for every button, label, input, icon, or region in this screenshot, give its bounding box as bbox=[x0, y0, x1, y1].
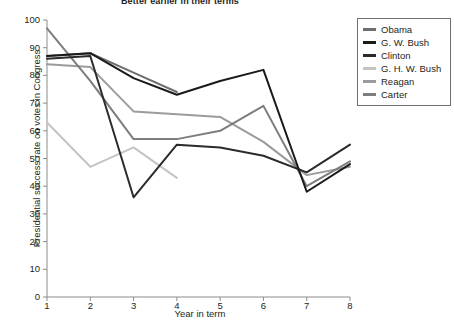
x-tick-label: 3 bbox=[124, 300, 144, 311]
legend-item-carter[interactable]: Carter bbox=[358, 88, 450, 101]
legend-swatch-icon bbox=[363, 28, 376, 31]
legend-label: G. H. W. Bush bbox=[381, 63, 441, 74]
x-tick-label: 7 bbox=[297, 300, 317, 311]
y-tick-label: 60 bbox=[14, 126, 40, 135]
x-tick-label: 1 bbox=[37, 300, 57, 311]
legend-item-g-h-w-bush[interactable]: G. H. W. Bush bbox=[358, 62, 450, 75]
chart-title: Better earlier in their terms bbox=[0, 0, 360, 6]
y-tick-label: 20 bbox=[14, 237, 40, 246]
legend-label: Reagan bbox=[381, 76, 414, 87]
y-tick-label: 10 bbox=[14, 264, 40, 273]
x-tick-label: 2 bbox=[80, 300, 100, 311]
x-tick-label: 6 bbox=[253, 300, 273, 311]
y-tick-label: 70 bbox=[14, 98, 40, 107]
legend-swatch-icon bbox=[363, 54, 376, 57]
chart-legend: ObamaG. W. BushClintonG. H. W. BushReaga… bbox=[357, 18, 451, 106]
y-tick-label: 40 bbox=[14, 181, 40, 190]
legend-label: Carter bbox=[381, 89, 407, 100]
series-line-clinton bbox=[47, 56, 350, 197]
x-tick-label: 4 bbox=[167, 300, 187, 311]
legend-item-clinton[interactable]: Clinton bbox=[358, 49, 450, 62]
y-tick-label: 100 bbox=[14, 15, 40, 24]
legend-swatch-icon bbox=[363, 93, 376, 96]
legend-item-reagan[interactable]: Reagan bbox=[358, 75, 450, 88]
chart-figure: Better earlier in their terms Presidenti… bbox=[0, 0, 454, 327]
legend-item-g-w-bush[interactable]: G. W. Bush bbox=[358, 36, 450, 49]
series-line-reagan bbox=[47, 64, 350, 175]
legend-label: G. W. Bush bbox=[381, 37, 429, 48]
legend-swatch-icon bbox=[363, 41, 376, 44]
x-tick-label: 5 bbox=[210, 300, 230, 311]
legend-swatch-icon bbox=[363, 67, 376, 70]
y-tick-label: 90 bbox=[14, 43, 40, 52]
y-tick-label: 30 bbox=[14, 209, 40, 218]
y-tick-label: 80 bbox=[14, 70, 40, 79]
x-tick-label: 8 bbox=[340, 300, 360, 311]
legend-item-obama[interactable]: Obama bbox=[358, 23, 450, 36]
series-line-obama bbox=[47, 53, 177, 92]
y-tick-label: 50 bbox=[14, 154, 40, 163]
legend-label: Obama bbox=[381, 24, 412, 35]
legend-swatch-icon bbox=[363, 80, 376, 83]
series-line-carter bbox=[47, 28, 350, 186]
y-axis-tick-labels: 0102030405060708090100 bbox=[0, 0, 40, 327]
legend-label: Clinton bbox=[381, 50, 411, 61]
